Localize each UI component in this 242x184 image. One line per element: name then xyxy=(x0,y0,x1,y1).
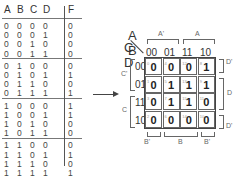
bracket-b-prime-right xyxy=(201,132,215,137)
cell-index: 7 xyxy=(165,90,167,107)
cell-value: 0 xyxy=(203,96,209,108)
header-divider xyxy=(2,18,82,19)
cell-index: 13 xyxy=(182,73,186,90)
cell-value: 1 xyxy=(203,61,209,73)
header-f: F xyxy=(68,4,74,15)
input-value: 1 xyxy=(4,168,9,178)
cell-value: 1 xyxy=(168,96,174,108)
cell-index: 8 xyxy=(200,55,202,72)
cell-value: 0 xyxy=(150,61,156,73)
input-value: 0 xyxy=(17,128,22,138)
input-value: 1 xyxy=(30,49,35,59)
group-label-a-prime: A' xyxy=(158,30,164,37)
cell-value: 0 xyxy=(150,96,156,108)
cell-value: 0 xyxy=(168,61,174,73)
header-c: C xyxy=(30,4,37,15)
kmap-cell: 100 xyxy=(198,111,215,128)
cell-index: 12 xyxy=(182,55,186,72)
input-value: 1 xyxy=(43,168,48,178)
cell-index: 5 xyxy=(165,73,167,90)
right-arrow-icon xyxy=(93,94,117,95)
bracket-a xyxy=(183,39,215,44)
group-label-b: B xyxy=(178,138,183,145)
input-value: 1 xyxy=(30,168,35,178)
cell-index: 10 xyxy=(200,108,204,125)
output-value: 1 xyxy=(68,168,73,178)
cell-index: 0 xyxy=(147,55,149,72)
group-label-b-prime-left: B' xyxy=(144,138,150,145)
bracket-d-prime-bottom xyxy=(219,115,224,129)
kmap-cell: 60 xyxy=(163,111,180,128)
input-value: 0 xyxy=(17,49,22,59)
cell-index: 15 xyxy=(182,90,186,107)
input-value: 1 xyxy=(43,88,48,98)
input-value: 0 xyxy=(4,49,9,59)
header-a: A xyxy=(4,4,11,15)
input-value: 1 xyxy=(43,49,48,59)
bracket-b xyxy=(164,132,198,137)
bracket-a-prime xyxy=(147,39,179,44)
cell-index: 11 xyxy=(200,90,204,107)
input-value: 1 xyxy=(30,128,35,138)
cell-value: 1 xyxy=(203,79,209,91)
input-value: 0 xyxy=(4,88,9,98)
cell-value: 1 xyxy=(168,79,174,91)
input-value: 1 xyxy=(17,168,22,178)
cell-index: 3 xyxy=(147,90,149,107)
kmap-cell: 140 xyxy=(180,111,197,128)
group-label-d-prime-top: D' xyxy=(226,58,232,65)
header-d: D xyxy=(43,4,50,15)
input-value: 1 xyxy=(4,128,9,138)
input-value: 1 xyxy=(30,88,35,98)
output-value: 1 xyxy=(68,88,73,98)
bracket-c xyxy=(130,96,135,128)
bracket-d xyxy=(219,78,224,110)
kmap-cell: 20 xyxy=(145,111,162,128)
input-value: 1 xyxy=(43,128,48,138)
cell-index: 14 xyxy=(182,108,186,125)
group-label-b-prime-right: B' xyxy=(204,138,210,145)
group-label-a: A xyxy=(195,30,200,37)
input-value: 1 xyxy=(17,88,22,98)
bracket-b-prime-left xyxy=(147,132,161,137)
cell-index: 9 xyxy=(200,73,202,90)
cell-value: 0 xyxy=(150,79,156,91)
cell-index: 2 xyxy=(147,108,149,125)
group-label-c-prime: C' xyxy=(121,70,127,77)
cell-index: 4 xyxy=(165,55,167,72)
kmap-grid: 00401208110511319130711511102060140100 xyxy=(144,57,216,129)
output-value: 0 xyxy=(68,49,73,59)
cell-value: 0 xyxy=(168,114,174,126)
group-label-d-prime-bottom: D' xyxy=(226,122,232,129)
output-value: 0 xyxy=(68,128,73,138)
cell-value: 0 xyxy=(150,114,156,126)
group-label-d: D xyxy=(227,89,232,96)
header-b: B xyxy=(17,4,24,15)
cell-index: 6 xyxy=(165,108,167,125)
cell-index: 1 xyxy=(147,73,149,90)
group-label-c: C xyxy=(122,106,127,113)
bracket-d-prime-top xyxy=(219,59,224,73)
output-divider xyxy=(64,6,65,166)
bracket-c-prime xyxy=(130,59,135,91)
